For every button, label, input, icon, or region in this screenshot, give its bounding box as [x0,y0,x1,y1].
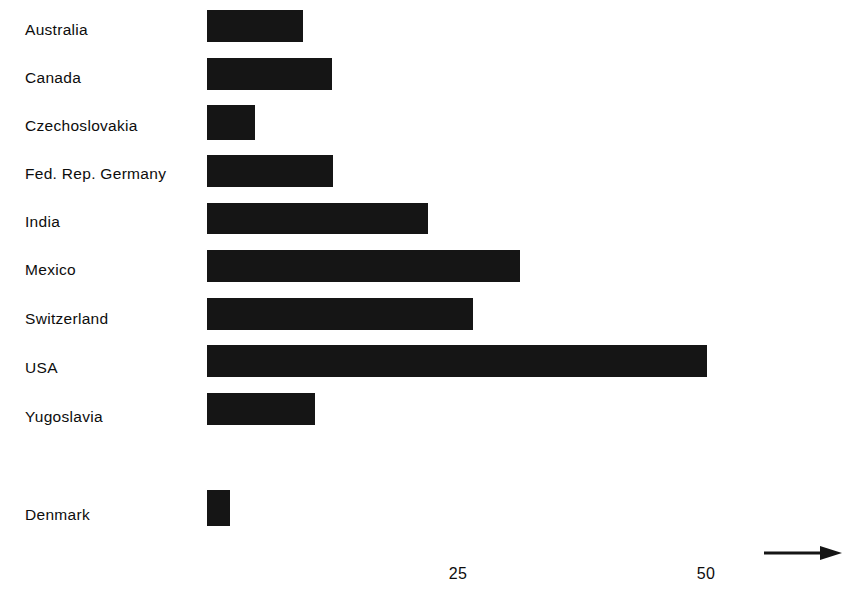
category-label: Canada [25,70,81,86]
bar [207,250,520,282]
category-label: Switzerland [25,311,108,327]
bar [207,58,332,90]
category-label: Denmark [25,507,90,523]
bar [207,155,333,187]
category-label: Yugoslavia [25,409,103,425]
x-axis-tick-label: 50 [676,566,736,582]
category-label: India [25,214,60,230]
category-label: Czechoslovakia [25,118,138,134]
category-label: Fed. Rep. Germany [25,166,166,182]
bar [207,393,315,425]
bar [207,298,473,330]
category-label: USA [25,360,58,376]
category-label: Mexico [25,262,76,278]
x-axis-tick-label: 25 [428,566,488,582]
right-arrow-icon [762,541,842,565]
bar [207,10,303,42]
bar-chart: AustraliaCanadaCzechoslovakiaFed. Rep. G… [0,0,849,612]
bar [207,490,230,526]
bar [207,203,428,234]
bar [207,345,707,377]
category-label: Australia [25,22,88,38]
bar [207,105,255,140]
